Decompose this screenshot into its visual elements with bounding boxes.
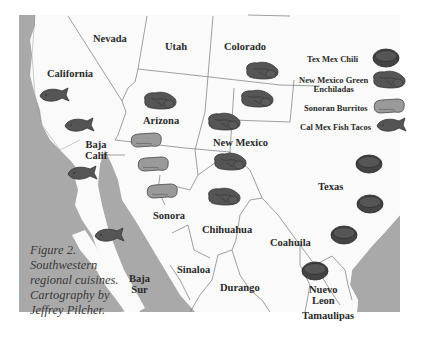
legend-label-sonoran-burritos: Sonoran Burritos	[304, 104, 368, 113]
label-sonora: Sonora	[153, 210, 185, 221]
chili-bowl-icon	[357, 195, 383, 213]
legend-label-new-mexico-green-enchiladas: New Mexico Green Enchiladas	[299, 76, 368, 94]
label-new-mexico: New Mexico	[213, 137, 268, 148]
legend-enchilada-icon	[374, 71, 405, 88]
chili-bowl-icon	[331, 226, 357, 244]
label-durango: Durango	[220, 282, 260, 293]
label-texas: Texas	[318, 181, 343, 192]
label-california: California	[47, 68, 93, 79]
label-baja-calif-line1: Baja	[85, 139, 107, 150]
caption-line: regional cuisines.	[30, 273, 118, 288]
chili-bowl-icon	[302, 262, 328, 280]
label-tamaulipas: Tamaulipas	[302, 310, 354, 321]
label-baja-calif: Baja Calif	[85, 139, 107, 161]
label-chihuahua: Chihuahua	[202, 224, 252, 235]
label-nuevo-leon: Nuevo Leon	[309, 284, 338, 306]
burrito-icon	[138, 157, 168, 171]
burrito-icon	[131, 133, 161, 147]
label-colorado: Colorado	[224, 41, 266, 52]
burrito-icon	[147, 184, 177, 198]
legend-burrito-icon	[374, 99, 404, 113]
label-arizona: Arizona	[143, 115, 179, 126]
legend-label-cal-mex-fish-tacos: Cal Mex Fish Tacos	[300, 123, 371, 132]
label-baja-sur-line2: Sur	[129, 284, 150, 295]
label-baja-calif-line2: Calif	[85, 150, 107, 161]
caption-line: Jeffrey Pilcher.	[30, 303, 118, 318]
figure-caption: Figure 2. Southwestern regional cuisines…	[30, 243, 118, 318]
legend-label-enchiladas-line2: Enchiladas	[299, 85, 368, 94]
caption-line: Southwestern	[30, 258, 118, 273]
legend-label-tex-mex-chili: Tex Mex Chili	[307, 55, 358, 64]
label-coahuila: Coahuila	[270, 237, 311, 248]
label-nevada: Nevada	[93, 33, 127, 44]
caption-line: Figure 2.	[30, 243, 118, 258]
label-utah: Utah	[165, 41, 187, 52]
label-sinaloa: Sinaloa	[177, 264, 210, 275]
chili-bowl-icon	[356, 155, 382, 173]
label-nuevo-leon-line2: Leon	[309, 295, 338, 306]
label-baja-sur: Baja Sur	[129, 273, 150, 295]
legend-chili-bowl-icon	[373, 49, 399, 67]
label-baja-sur-line1: Baja	[129, 273, 150, 284]
label-nuevo-leon-line1: Nuevo	[309, 284, 338, 295]
caption-line: Cartography by	[30, 288, 118, 303]
